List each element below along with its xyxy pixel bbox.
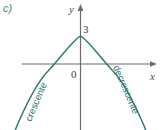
- y-tick-label-3: 3: [83, 23, 89, 35]
- parabola-figure: c) y x 0 3 crescente decrescente: [0, 0, 165, 130]
- y-axis-label: y: [68, 3, 74, 15]
- x-axis-arrow-icon: [150, 61, 157, 67]
- right-branch-annotation: decrescente: [111, 63, 141, 115]
- left-branch-annotation: crescente: [23, 81, 49, 123]
- origin-label: 0: [71, 68, 77, 80]
- x-axis-label: x: [149, 70, 155, 82]
- parabola-plot: y x 0 3 crescente decrescente: [0, 0, 165, 130]
- y-axis-arrow-icon: [78, 4, 84, 11]
